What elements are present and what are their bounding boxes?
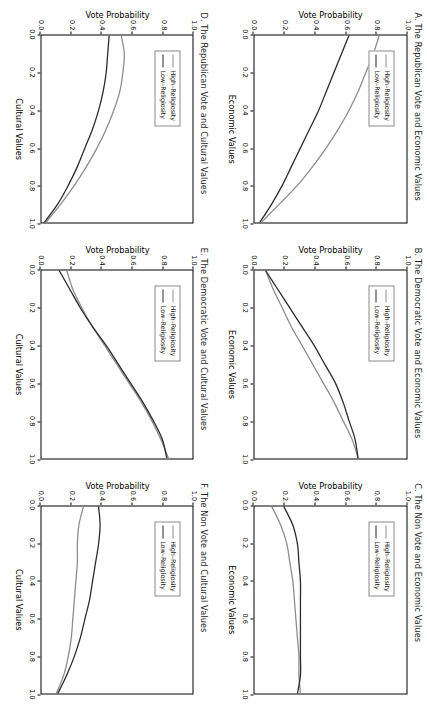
x-axis: 0.00.20.40.60.81.0Economic Values	[214, 505, 254, 694]
y-tick-label: 1.0	[190, 20, 198, 31]
legend-item-label: High–Religiosity	[168, 305, 176, 356]
y-tick-label: 0.6	[342, 255, 350, 266]
legend: High–ReligiosityLow–Religiosity	[154, 50, 180, 126]
legend-line-swatch-icon	[172, 289, 173, 302]
legend-line-swatch-icon	[385, 525, 386, 538]
panel-d: D. The Republican Vote and Cultural Valu…	[0, 0, 214, 235]
x-tick-label: 0.4	[241, 104, 249, 115]
figure-root: A. The Republican Vote and Economic Valu…	[0, 0, 427, 706]
x-axis: 0.00.20.40.60.81.0Economic Values	[214, 34, 254, 223]
x-tick-label: 0.6	[27, 613, 35, 624]
y-tick-label: 0.0	[36, 20, 44, 31]
y-tick-label: 1.0	[190, 255, 198, 266]
legend-line-swatch-icon	[375, 54, 376, 67]
y-tick-label: 0.4	[311, 20, 319, 31]
legend-item-high-religiosity: High–Religiosity	[168, 525, 176, 592]
y-tick-label: 0.2	[280, 255, 288, 266]
x-tick-label: 0.2	[27, 302, 35, 313]
y-tick-label: 0.8	[372, 255, 380, 266]
panel-title: B. The Democratic Vote and Economic Valu…	[412, 247, 422, 437]
x-tick-label: 0.0	[27, 499, 35, 510]
legend-item-low-religiosity: Low–Religiosity	[158, 289, 166, 356]
x-axis-label: Economic Values	[227, 34, 237, 223]
legend-item-low-religiosity: Low–Religiosity	[372, 525, 380, 592]
y-tick-label: 0.6	[128, 490, 136, 501]
y-axis-label: Vote Probability	[290, 480, 370, 490]
panel-f: F. The Non Vote and Cultural Values0.00.…	[0, 471, 214, 706]
legend: High–ReligiosityLow–Religiosity	[368, 285, 394, 361]
x-tick-label: 0.2	[27, 67, 35, 78]
panel-title: A. The Republican Vote and Economic Valu…	[412, 12, 422, 200]
panel-title: C. The Non Vote and Economic Values	[412, 483, 422, 642]
panel-title: D. The Republican Vote and Cultural Valu…	[199, 12, 209, 194]
legend-item-label: Low–Religiosity	[372, 541, 380, 590]
legend-item-label: Low–Religiosity	[158, 70, 166, 119]
y-tick-label: 0.6	[342, 490, 350, 501]
y-axis-label: Vote Probability	[290, 244, 370, 254]
y-tick-label: 0.6	[128, 255, 136, 266]
series-line-high-religiosity	[261, 35, 379, 222]
x-tick-label: 0.8	[241, 180, 249, 191]
legend-item-label: Low–Religiosity	[372, 305, 380, 354]
x-tick-label: 0.6	[241, 142, 249, 153]
plot-area: High–ReligiosityLow–Religiosity	[40, 269, 194, 458]
legend-item-high-religiosity: High–Religiosity	[382, 525, 390, 592]
legend-item-label: High–Religiosity	[382, 541, 390, 592]
x-tick-label: 0.0	[241, 499, 249, 510]
y-tick-label: 0.2	[280, 20, 288, 31]
plot-area: High–ReligiosityLow–Religiosity	[254, 269, 408, 458]
legend: High–ReligiosityLow–Religiosity	[368, 50, 394, 126]
x-tick-label: 0.4	[27, 104, 35, 115]
y-tick-label: 0.8	[159, 20, 167, 31]
y-tick-label: 0.0	[250, 20, 258, 31]
legend-item-high-religiosity: High–Religiosity	[168, 289, 176, 356]
series-line-low-religiosity	[59, 270, 167, 457]
x-tick-label: 0.4	[241, 340, 249, 351]
legend-item-low-religiosity: Low–Religiosity	[372, 289, 380, 356]
x-tick-label: 0.2	[27, 537, 35, 548]
legend-item-high-religiosity: High–Religiosity	[382, 289, 390, 356]
y-tick-label: 0.0	[250, 490, 258, 501]
x-axis: 0.00.20.40.60.81.0Cultural Values	[0, 34, 40, 223]
legend: High–ReligiosityLow–Religiosity	[368, 521, 394, 597]
y-tick-label: 0.2	[67, 490, 75, 501]
y-tick-label: 0.0	[36, 490, 44, 501]
x-tick-label: 0.8	[27, 651, 35, 662]
legend-item-label: High–Religiosity	[168, 70, 176, 121]
legend-line-swatch-icon	[385, 289, 386, 302]
legend-item-high-religiosity: High–Religiosity	[168, 54, 176, 121]
x-tick-label: 0.8	[241, 416, 249, 427]
y-axis: 0.00.20.40.60.81.0Vote Probability	[40, 0, 194, 34]
panel-title: E. The Democratic Vote and Cultural Valu…	[199, 247, 209, 430]
y-tick-label: 0.4	[311, 255, 319, 266]
y-tick-label: 0.4	[311, 490, 319, 501]
x-tick-label: 1.0	[27, 689, 35, 700]
legend-line-swatch-icon	[375, 525, 376, 538]
rotated-figure-canvas: A. The Republican Vote and Economic Valu…	[0, 0, 427, 706]
y-axis: 0.00.20.40.60.81.0Vote Probability	[254, 0, 408, 34]
series-line-high-religiosity	[265, 270, 357, 457]
panel-title: F. The Non Vote and Cultural Values	[199, 483, 209, 632]
x-axis: 0.00.20.40.60.81.0Economic Values	[214, 269, 254, 458]
plot-area: High–ReligiosityLow–Religiosity	[40, 34, 194, 223]
y-tick-label: 0.4	[97, 255, 105, 266]
x-tick-label: 1.0	[27, 453, 35, 464]
series-line-high-religiosity	[67, 270, 169, 457]
y-axis: 0.00.20.40.60.81.0Vote Probability	[40, 471, 194, 505]
x-tick-label: 1.0	[241, 453, 249, 464]
y-tick-label: 1.0	[190, 490, 198, 501]
x-axis: 0.00.20.40.60.81.0Cultural Values	[0, 269, 40, 458]
series-line-low-religiosity	[44, 35, 109, 222]
y-tick-label: 0.2	[67, 255, 75, 266]
legend-item-label: Low–Religiosity	[158, 305, 166, 354]
legend-line-swatch-icon	[172, 54, 173, 67]
y-axis: 0.00.20.40.60.81.0Vote Probability	[254, 235, 408, 269]
y-axis-label: Vote Probability	[77, 9, 157, 19]
legend-line-swatch-icon	[162, 54, 163, 67]
x-tick-label: 0.2	[241, 67, 249, 78]
panel-grid: A. The Republican Vote and Economic Valu…	[0, 0, 427, 706]
legend: High–ReligiosityLow–Religiosity	[154, 521, 180, 597]
y-axis-label: Vote Probability	[77, 244, 157, 254]
x-tick-label: 0.4	[27, 340, 35, 351]
y-tick-label: 1.0	[403, 20, 411, 31]
